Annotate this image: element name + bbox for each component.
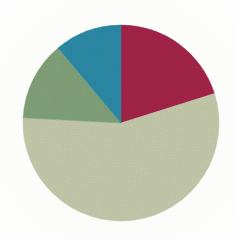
pie-chart-figure (0, 0, 236, 239)
pie-chart-canvas (0, 0, 236, 239)
